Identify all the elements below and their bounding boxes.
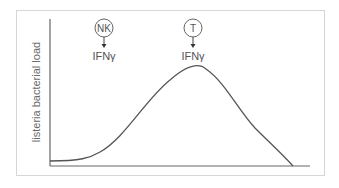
t-arrowhead-icon xyxy=(191,44,196,48)
nk-cell-label: NK xyxy=(97,23,111,34)
nk-ifn-label: IFNγ xyxy=(92,50,116,62)
t-ifn-label: IFNγ xyxy=(181,50,205,62)
t-cell-label: T xyxy=(190,23,196,34)
t-cell-annotation: T IFNγ xyxy=(181,19,205,62)
nk-cell-annotation: NK IFNγ xyxy=(92,19,116,62)
bacterial-load-curve xyxy=(50,66,293,166)
diagram-canvas: NK IFNγ T IFNγ xyxy=(0,0,339,188)
nk-arrowhead-icon xyxy=(102,44,107,48)
